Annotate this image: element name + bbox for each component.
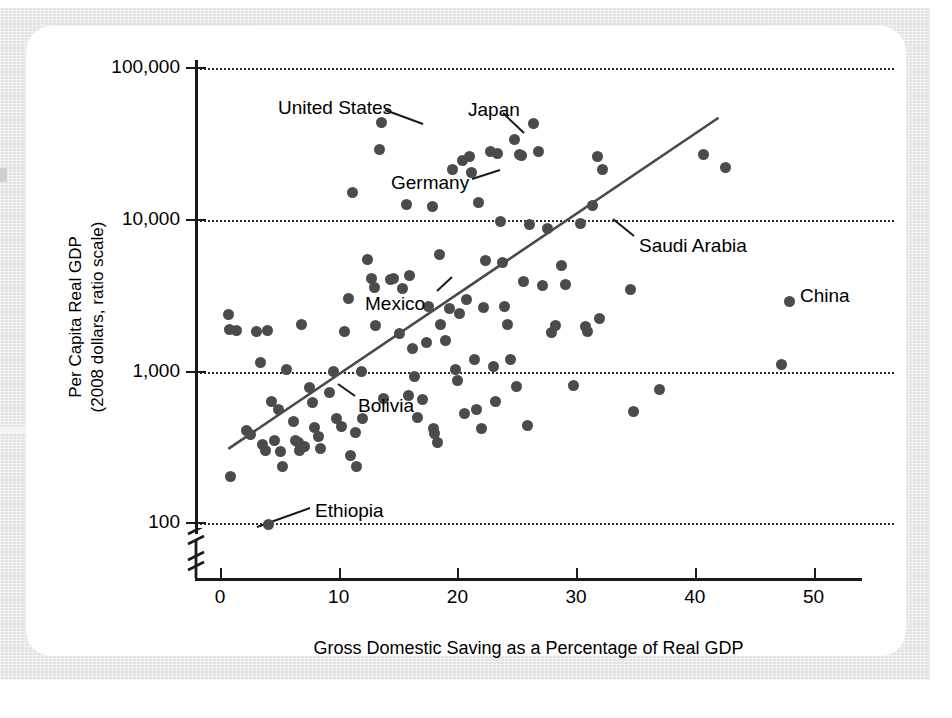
figure-page: 1001,00010,000100,000 01020304050 United… <box>0 0 952 718</box>
plate-edge-mark <box>0 168 7 182</box>
figure-card <box>26 26 906 656</box>
